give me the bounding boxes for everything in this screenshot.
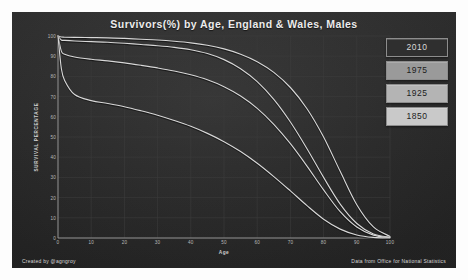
x-tick-label: 50	[221, 240, 227, 245]
x-tick-label: 10	[88, 240, 94, 245]
y-tick-label: 90	[50, 54, 56, 59]
x-tick-label: 30	[155, 240, 161, 245]
x-tick-label: 70	[288, 240, 294, 245]
y-tick-label: 10	[50, 215, 56, 220]
x-tick-label: 90	[354, 240, 360, 245]
y-tick-label: 100	[48, 34, 56, 39]
y-axis-ticks: 0102030405060708090100	[36, 36, 56, 238]
x-axis-ticks: 0102030405060708090100	[58, 240, 390, 250]
legend-item-2010[interactable]: 2010	[386, 38, 448, 57]
plot-area	[58, 36, 390, 238]
x-tick-label: 60	[254, 240, 260, 245]
legend-item-1925[interactable]: 1925	[386, 84, 448, 103]
y-tick-label: 30	[50, 175, 56, 180]
y-tick-label: 0	[53, 236, 56, 241]
x-axis-title: Age	[58, 250, 390, 255]
chart-legend: 2010197519251850	[386, 38, 448, 126]
y-tick-label: 20	[50, 195, 56, 200]
footer-source: Data from Office for National Statistics	[351, 258, 446, 264]
x-tick-label: 100	[386, 240, 394, 245]
y-tick-label: 70	[50, 94, 56, 99]
x-tick-label: 80	[321, 240, 327, 245]
footer-credit: Created by @agngroy	[22, 258, 76, 264]
legend-item-1975[interactable]: 1975	[386, 61, 448, 80]
y-tick-label: 50	[50, 135, 56, 140]
x-tick-label: 20	[122, 240, 128, 245]
y-tick-label: 80	[50, 74, 56, 79]
legend-item-1850[interactable]: 1850	[386, 107, 448, 126]
chart-panel: Survivors(%) by Age, England & Wales, Ma…	[12, 12, 456, 268]
y-tick-label: 40	[50, 155, 56, 160]
chart-page: Survivors(%) by Age, England & Wales, Ma…	[0, 0, 468, 280]
y-tick-label: 60	[50, 114, 56, 119]
x-tick-label: 0	[57, 240, 60, 245]
x-tick-label: 40	[188, 240, 194, 245]
survivorship-curves	[58, 36, 390, 238]
chart-title: Survivors(%) by Age, England & Wales, Ma…	[12, 18, 456, 30]
